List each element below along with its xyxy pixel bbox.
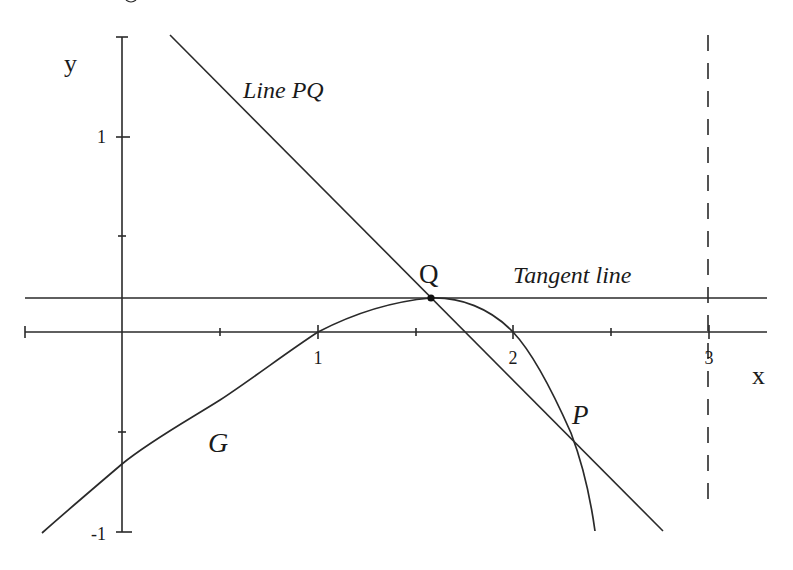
point-q-label: Q — [419, 259, 439, 289]
curve-g-label: G — [208, 427, 228, 458]
x-axis-label: x — [752, 361, 765, 390]
line-pq-label: Line PQ — [242, 77, 324, 103]
x-axis — [25, 325, 767, 339]
y-axis-label: y — [64, 49, 77, 78]
point-q-marker — [427, 294, 434, 301]
y-tick-label-neg1: -1 — [91, 524, 106, 544]
point-p-label: P — [571, 400, 589, 430]
tangent-line-label: Tangent line — [513, 262, 632, 288]
x-tick-label-1: 1 — [314, 348, 323, 368]
cropped-glyph-fragment — [126, 0, 136, 2]
y-tick-label-1: 1 — [97, 127, 106, 147]
diagram-canvas: 1 2 3 1 -1 y x Line PQ Tangent line Q P … — [0, 0, 793, 570]
x-tick-label-2: 2 — [509, 348, 518, 368]
x-tick-label-3: 3 — [705, 348, 714, 368]
